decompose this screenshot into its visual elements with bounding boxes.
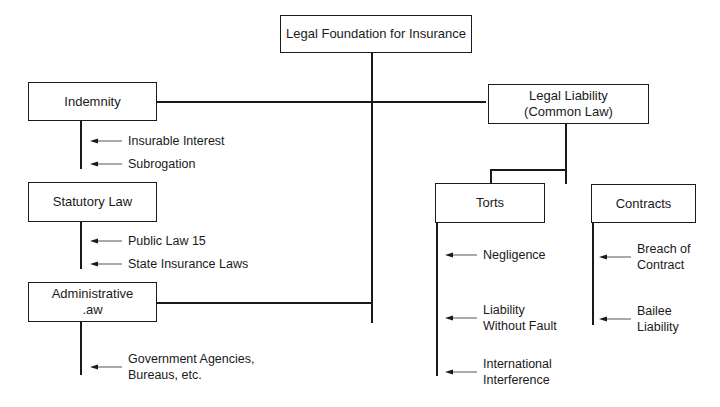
indemnity-stem [80,120,82,169]
arrow-left-icon [90,236,122,246]
box-administrative-law: Administrative .aw [28,282,157,322]
liability-branch-connector [490,169,566,171]
list-item-breach-of-contract: Breach of Contract [599,241,691,273]
root-trunk [371,52,373,323]
contracts-stem [592,222,594,325]
list-item-public-law-15: Public Law 15 [90,233,206,249]
torts-stem [436,222,438,376]
list-item-government-agencies: Government Agencies, Bureaus, etc. [90,351,254,383]
root-label: Legal Foundation for Insurance [286,26,466,42]
arrow-left-icon [90,259,122,269]
arrow-left-icon [599,314,631,324]
list-item-liability-without-fault: Liability Without Fault [445,302,557,334]
legal-liability-label: Legal Liability (Common Law) [524,88,613,120]
box-contracts: Contracts [591,184,696,223]
box-legal-liability: Legal Liability (Common Law) [488,84,649,124]
administrative-stem [80,321,82,375]
indemnity-label: Indemnity [64,94,120,110]
indemnity-to-liability-connector [156,101,486,103]
list-item-state-insurance-laws: State Insurance Laws [90,256,248,272]
statutory-stem [80,221,82,269]
torts-drop-connector [490,169,492,184]
arrow-left-icon [599,252,631,262]
contracts-label: Contracts [616,196,672,212]
administrative-connector [156,302,372,304]
box-statutory-law: Statutory Law [28,182,157,222]
list-item-negligence: Negligence [445,247,546,263]
arrow-left-icon [445,250,477,260]
statutory-law-label: Statutory Law [53,194,133,210]
arrow-left-icon [90,159,122,169]
box-indemnity: Indemnity [28,82,157,121]
list-item-bailee-liability: Bailee Liability [599,303,679,335]
administrative-law-label: Administrative .aw [52,286,134,318]
arrow-left-icon [90,136,122,146]
arrow-left-icon [90,362,122,372]
box-torts: Torts [435,183,545,223]
list-item-international-interference: International Interference [445,356,552,388]
list-item-subrogation: Subrogation [90,156,195,172]
torts-label: Torts [476,195,504,211]
root-box-legal-foundation: Legal Foundation for Insurance [280,15,472,53]
liability-down-connector [565,123,567,170]
arrow-left-icon [445,313,477,323]
contracts-drop-connector [565,169,567,184]
arrow-left-icon [445,367,477,377]
list-item-insurable-interest: Insurable Interest [90,133,225,149]
